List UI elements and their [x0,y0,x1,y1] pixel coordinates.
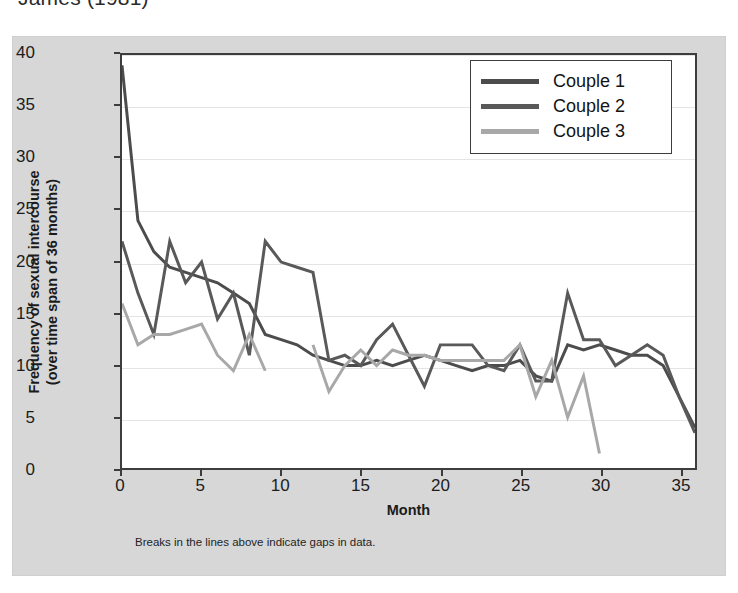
y-tick-label: 10 [0,356,35,376]
y-axis-title: Frequency of sexual intercourse (over ti… [25,132,61,432]
x-tick-label: 25 [491,476,551,496]
chart-footnote: Breaks in the lines above indicate gaps … [135,536,375,548]
y-tick-label: 25 [0,199,35,219]
legend-swatch-couple-2 [481,104,539,109]
x-tick-label: 15 [330,476,390,496]
y-tick-label: 40 [0,43,35,63]
legend-label-couple-3: Couple 3 [553,121,625,142]
y-tick-label: 30 [0,147,35,167]
x-tick-mark [521,470,523,476]
x-tick-mark [120,470,122,476]
legend-label-couple-2: Couple 2 [553,96,625,117]
x-tick-mark [681,470,683,476]
y-tick-label: 0 [0,460,35,480]
legend-item: Couple 1 [481,69,661,94]
x-tick-label: 10 [250,476,310,496]
x-tick-mark [601,470,603,476]
y-tick-label: 15 [0,304,35,324]
y-tick-label: 5 [0,408,35,428]
x-tick-label: 5 [170,476,230,496]
legend-swatch-couple-1 [481,79,539,84]
legend-label-couple-1: Couple 1 [553,71,625,92]
x-tick-mark [280,470,282,476]
x-tick-mark [441,470,443,476]
legend-swatch-couple-3 [481,129,539,134]
x-axis-title: Month [120,502,697,518]
x-tick-mark [200,470,202,476]
y-tick-label: 35 [0,95,35,115]
legend-item: Couple 2 [481,94,661,119]
y-tick-label: 20 [0,252,35,272]
x-tick-mark [360,470,362,476]
x-tick-label: 30 [571,476,631,496]
legend-item: Couple 3 [481,119,661,144]
x-tick-label: 35 [651,476,711,496]
source-citation: James (1981) [18,0,149,10]
chart-legend: Couple 1 Couple 2 Couple 3 [470,60,672,154]
figure-panel: Frequency of sexual intercourse (over ti… [12,36,726,576]
x-tick-label: 0 [90,476,150,496]
y-axis-title-line2: (over time span of 36 months) [43,132,61,432]
x-tick-label: 20 [411,476,471,496]
